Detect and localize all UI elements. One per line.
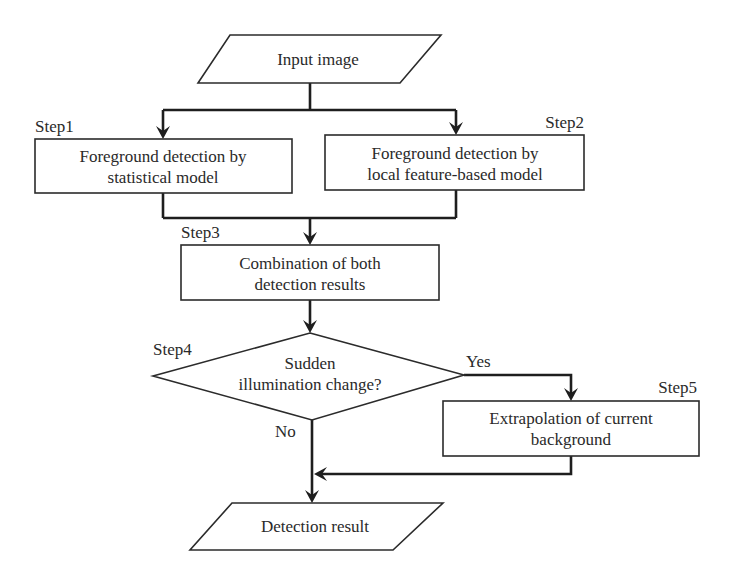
node-label-line2: detection results [255, 275, 366, 294]
step-label: Step5 [658, 378, 697, 397]
flowchart-diagram: Input image Step1 Foreground detection b… [0, 0, 731, 574]
node-step4-decision: Step4 Sudden illumination change? Yes No [153, 333, 491, 441]
node-label: Input image [277, 50, 359, 69]
node-label: Detection result [261, 517, 369, 536]
step-label: Step3 [181, 223, 220, 242]
node-label-line1: Foreground detection by [371, 144, 539, 163]
node-label-line2: statistical model [108, 168, 219, 187]
node-label-line1: Combination of both [239, 254, 381, 273]
step-label: Step1 [35, 117, 74, 136]
node-label-line2: local feature-based model [367, 165, 543, 184]
edge-step5-return [322, 455, 571, 474]
edge-yes-branch [464, 375, 571, 393]
node-detection-result: Detection result [190, 503, 443, 550]
branch-label-no: No [275, 422, 296, 441]
branch-label-yes: Yes [466, 352, 491, 371]
step-label: Step4 [153, 340, 192, 359]
node-label-line1: Foreground detection by [79, 147, 247, 166]
node-label-line2: illumination change? [238, 375, 381, 394]
node-label-line1: Extrapolation of current [489, 409, 653, 428]
step-label: Step2 [545, 113, 584, 132]
node-label-line1: Sudden [285, 354, 337, 373]
node-label-line2: background [531, 430, 612, 449]
node-step2: Step2 Foreground detection by local feat… [325, 113, 584, 190]
node-input-image: Input image [198, 35, 441, 83]
